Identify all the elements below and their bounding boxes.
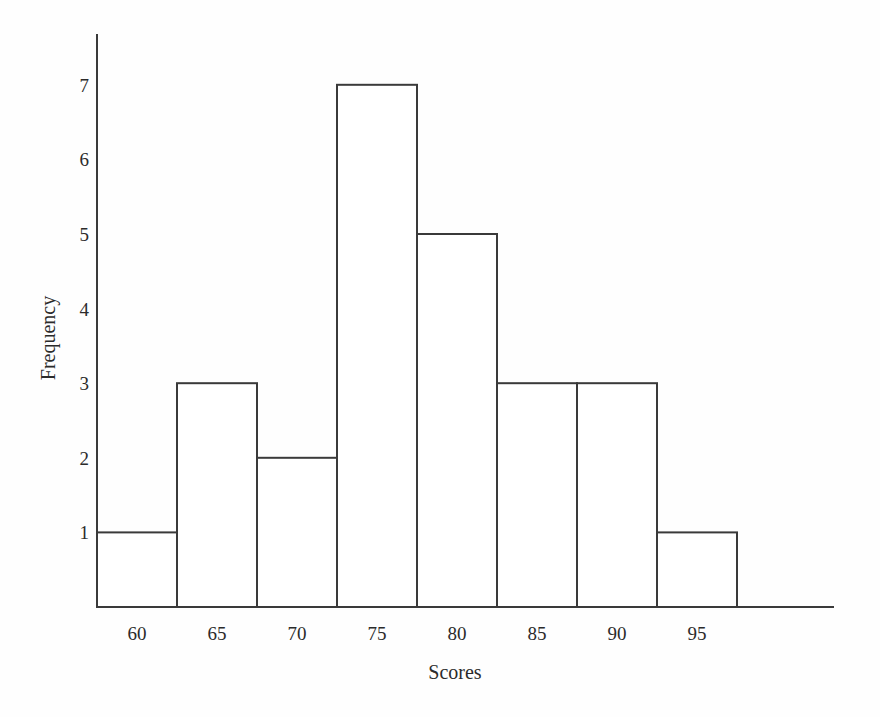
x-tick-label-90: 90 <box>608 624 627 643</box>
histogram-bar-60 <box>97 532 177 607</box>
x-tick-label-85: 85 <box>528 624 547 643</box>
histogram-bar-95 <box>657 532 737 607</box>
x-tick-label-95: 95 <box>688 624 707 643</box>
y-tick-label-7: 7 <box>67 75 89 94</box>
y-tick-label-3: 3 <box>67 374 89 393</box>
y-tick-label-6: 6 <box>67 150 89 169</box>
x-tick-label-70: 70 <box>288 624 307 643</box>
y-tick-label-5: 5 <box>67 225 89 244</box>
y-tick-label-4: 4 <box>67 299 89 318</box>
histogram-bar-85 <box>497 383 577 607</box>
x-tick-label-75: 75 <box>368 624 387 643</box>
histogram-bar-75 <box>337 85 417 607</box>
histogram-bar-80 <box>417 234 497 607</box>
x-tick-label-65: 65 <box>208 624 227 643</box>
y-axis-title: Frequency <box>38 296 58 380</box>
x-axis-title: Scores <box>428 662 481 682</box>
histogram-bars <box>97 85 737 607</box>
y-tick-label-1: 1 <box>67 523 89 542</box>
histogram-bar-90 <box>577 383 657 607</box>
y-tick-label-2: 2 <box>67 448 89 467</box>
histogram-bar-65 <box>177 383 257 607</box>
histogram-bar-70 <box>257 458 337 607</box>
histogram-plot-area <box>0 0 880 717</box>
histogram-figure: 1234567 6065707580859095 Scores Frequenc… <box>0 0 880 717</box>
x-tick-label-80: 80 <box>448 624 467 643</box>
x-tick-label-60: 60 <box>128 624 147 643</box>
